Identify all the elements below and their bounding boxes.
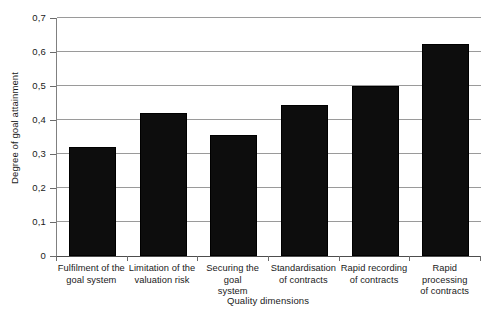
y-tick-label: 0,6	[32, 47, 46, 57]
x-axis-category-labels: Fulfilment of thegoal systemLimitation o…	[56, 263, 480, 298]
bar[interactable]	[352, 86, 399, 256]
x-category-label-line: Limitation of the	[128, 263, 197, 275]
x-category-label-line: Rapid processing	[410, 263, 479, 286]
bar-slot	[57, 18, 128, 256]
bar-slot	[410, 18, 481, 256]
bar-slot	[340, 18, 411, 256]
plot-area	[56, 18, 481, 257]
x-tick-mark	[56, 256, 57, 261]
x-tick-mark	[127, 256, 128, 261]
x-axis-title: Quality dimensions	[56, 295, 480, 306]
x-category-label-line: Securing the goal	[198, 263, 267, 286]
bar[interactable]	[140, 113, 187, 256]
bar-slot	[198, 18, 269, 256]
x-tick-mark	[409, 256, 410, 261]
bar[interactable]	[422, 44, 469, 257]
y-tick-label: 0,1	[32, 217, 46, 227]
y-tick-label: 0,5	[32, 81, 46, 91]
x-category-label-line: goal system	[57, 275, 126, 287]
x-category-label-line: Standardisation	[269, 263, 338, 275]
x-tick-mark	[197, 256, 198, 261]
x-tick-mark	[339, 256, 340, 261]
x-category-label: Securing the goalsystem	[197, 263, 268, 298]
y-tick-label: 0,2	[32, 183, 46, 193]
x-category-label: Fulfilment of thegoal system	[56, 263, 127, 298]
bar[interactable]	[281, 105, 328, 256]
x-category-label: Limitation of thevaluation risk	[127, 263, 198, 298]
x-tick-mark	[268, 256, 269, 261]
bar-slot	[269, 18, 340, 256]
y-axis-ticks: 00,10,20,30,40,50,60,7	[0, 0, 56, 316]
x-axis-ticks	[56, 256, 480, 262]
y-tick-label: 0,7	[32, 13, 46, 23]
x-category-label-line: of contracts	[269, 275, 338, 287]
y-tick-label: 0,4	[32, 115, 46, 125]
bar-chart: Degree of goal attainment 00,10,20,30,40…	[0, 0, 500, 316]
y-tick-label: 0,3	[32, 149, 46, 159]
x-category-label-line: Fulfilment of the	[57, 263, 126, 275]
x-category-label: Rapid recordingof contracts	[339, 263, 410, 298]
x-category-label-line: of contracts	[340, 275, 409, 287]
bar[interactable]	[69, 147, 116, 256]
y-tick-label: 0	[41, 251, 46, 261]
bar[interactable]	[210, 135, 257, 256]
x-category-label-line: valuation risk	[128, 275, 197, 287]
bar-slot	[128, 18, 199, 256]
bar-series	[57, 18, 481, 256]
x-category-label: Standardisationof contracts	[268, 263, 339, 298]
x-category-label-line: Rapid recording	[340, 263, 409, 275]
x-category-label: Rapid processingof contracts	[409, 263, 480, 298]
x-tick-mark	[480, 256, 481, 261]
